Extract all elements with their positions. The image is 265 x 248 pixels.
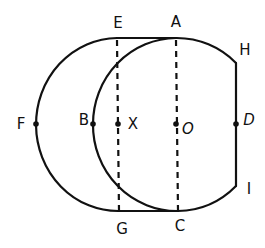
label-H: H: [239, 43, 250, 58]
point-D: [233, 121, 239, 127]
arc-left-outer: [36, 38, 119, 211]
point-X: [115, 121, 121, 127]
point-F: [33, 121, 39, 127]
point-O: [173, 121, 179, 127]
label-F: F: [17, 117, 26, 132]
geometry-diagram: E A H F B X O D I G C: [0, 0, 265, 248]
label-E: E: [113, 16, 122, 31]
label-G: G: [116, 222, 128, 237]
label-C: C: [175, 219, 185, 234]
label-A: A: [171, 15, 181, 30]
label-O: O: [182, 122, 194, 137]
label-I: I: [247, 182, 251, 197]
label-X: X: [128, 117, 138, 132]
label-D: D: [243, 113, 255, 128]
point-B: [90, 121, 96, 127]
label-B: B: [79, 113, 89, 128]
arc-inner-circle: [93, 38, 236, 211]
